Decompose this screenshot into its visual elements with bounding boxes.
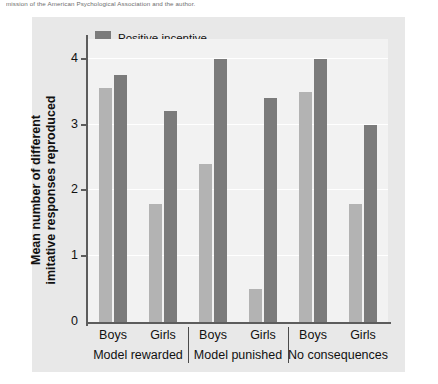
x-group-label: No consequences bbox=[278, 348, 398, 362]
y-tick-label-3: 3 bbox=[52, 118, 78, 130]
x-tick-label-sex: Boys bbox=[288, 328, 338, 342]
bar bbox=[314, 59, 327, 322]
y-tick-label-0: 0 bbox=[52, 315, 78, 327]
bar bbox=[249, 289, 262, 322]
x-tick-label-sex: Girls bbox=[338, 328, 388, 342]
bars-layer bbox=[88, 39, 388, 322]
y-tick-label-1: 1 bbox=[52, 249, 78, 261]
figure-caption-fragment: mission of the American Psychological As… bbox=[6, 0, 436, 9]
bar bbox=[114, 75, 127, 322]
y-tick-label-2: 2 bbox=[52, 183, 78, 195]
x-axis-line bbox=[86, 322, 391, 324]
bar bbox=[364, 125, 377, 322]
figure-panel: Positive incentive No incentive Mean num… bbox=[32, 17, 405, 372]
x-tick-label-sex: Girls bbox=[238, 328, 288, 342]
x-tick-label-sex: Boys bbox=[88, 328, 138, 342]
y-tick-label-4: 4 bbox=[52, 52, 78, 64]
x-tick-label-sex: Girls bbox=[138, 328, 188, 342]
bar bbox=[199, 164, 212, 322]
bar bbox=[214, 59, 227, 322]
bar bbox=[149, 204, 162, 322]
x-tick-label-sex: Boys bbox=[188, 328, 238, 342]
bar bbox=[99, 88, 112, 322]
bar bbox=[299, 92, 312, 322]
bar bbox=[264, 98, 277, 322]
bar bbox=[164, 111, 177, 322]
bar bbox=[349, 204, 362, 322]
